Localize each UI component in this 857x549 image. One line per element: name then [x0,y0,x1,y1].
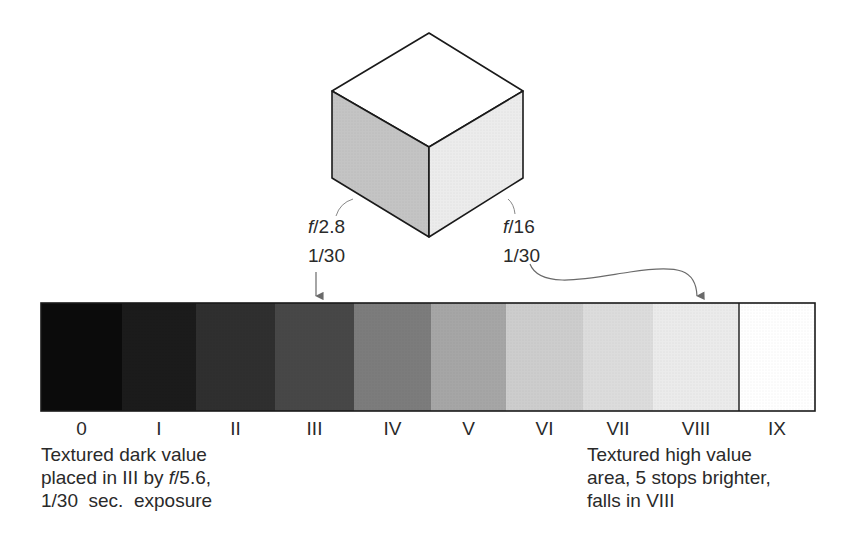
zone-label: V [439,418,499,440]
zone-system-diagram: f/2.8 1/30 f/16 1/30 0IIIIIIIVVVIVIIVIII… [0,0,857,549]
zone-label: 0 [52,418,112,440]
cube-illustration [332,33,523,237]
arrow-to-zone-VIII [530,264,697,296]
dark-value-caption: Textured dark value placed in III by f/5… [41,443,212,512]
zone-label: IX [747,418,807,440]
left-shutter-label: 1/30 [308,243,345,269]
right-face-leader-line [508,199,515,214]
left-aperture-label: f/2.8 [308,214,345,240]
zone-label: VIII [666,418,726,440]
high-value-caption: Textured high value area, 5 stops bright… [587,443,771,512]
zone-label: II [206,418,266,440]
zone-label: I [129,418,189,440]
zone-label: III [285,418,345,440]
right-shutter-label: 1/30 [503,243,540,269]
zone-label: IV [363,418,423,440]
zone-scale-bar [41,303,815,411]
zone-label: VII [588,418,648,440]
zone-label: VI [515,418,575,440]
right-aperture-label: f/16 [503,214,535,240]
